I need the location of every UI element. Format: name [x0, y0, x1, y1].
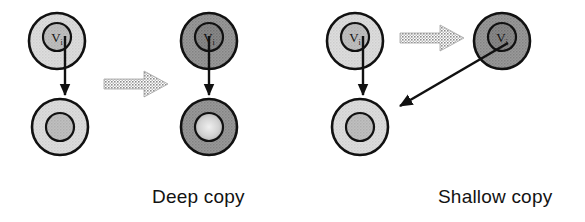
deep-copy-operation-arrow	[104, 71, 168, 97]
panel-shallow-copy: Vi Vi	[327, 13, 530, 155]
block-arrow-shape	[400, 25, 464, 51]
shallow-shared-reference-arrow	[400, 43, 508, 106]
deep-copied-referenced-object	[181, 99, 237, 155]
shallow-source-container-object: Vi	[327, 13, 383, 69]
object-inner-circle	[195, 113, 223, 141]
shallow-copy-operation-arrow	[400, 25, 464, 51]
shallow-source-referenced-object	[332, 99, 388, 155]
object-inner-circle	[46, 113, 74, 141]
object-inner-circle	[346, 113, 374, 141]
panel-deep-copy: Vi Vi	[29, 13, 237, 155]
caption-deep-copy: Deep copy	[152, 186, 245, 208]
block-arrow-shape	[104, 71, 168, 97]
deep-source-container-object: Vi	[29, 13, 85, 69]
deep-source-referenced-object	[32, 99, 88, 155]
shallow-copied-container-object: Vi	[474, 13, 530, 69]
caption-shallow-copy: Shallow copy	[438, 186, 552, 208]
diagram-canvas: Vi Vi	[0, 0, 585, 222]
